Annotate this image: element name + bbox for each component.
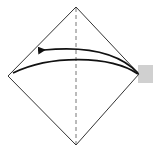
diagram-svg bbox=[0, 0, 153, 150]
flap-rectangle bbox=[138, 65, 153, 83]
origami-diagram bbox=[0, 0, 153, 150]
paper-square-outline bbox=[8, 7, 139, 145]
